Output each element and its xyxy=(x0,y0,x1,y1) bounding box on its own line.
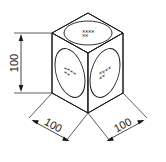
top-face-marking-text-line1: ✕✕✕✕ xyxy=(82,30,94,34)
left-depth-ext-line-b xyxy=(66,113,88,141)
cube-body xyxy=(52,13,123,113)
height-arrow-bottom xyxy=(19,85,24,92)
left-depth-dim-label: 100 xyxy=(42,115,64,134)
isometric-cube-drawing: ✕✕✕✕ ✕✕ ✕✕✕✕ ✕✕ ✕✕✕✕ ✕✕ 100 xyxy=(0,0,166,162)
top-face-marking-text-line2: ✕✕ xyxy=(82,34,88,38)
right-width-ext-line-a xyxy=(123,93,147,118)
height-arrow-top xyxy=(19,34,24,41)
technical-drawing-canvas: ✕✕✕✕ ✕✕ ✕✕✕✕ ✕✕ ✕✕✕✕ ✕✕ 100 xyxy=(0,0,166,162)
right-width-dim-label: 100 xyxy=(112,115,134,134)
height-dim-label: 100 xyxy=(8,54,20,72)
right-width-ext-line-b xyxy=(88,113,110,141)
vertical-height-dimension: 100 xyxy=(8,33,52,93)
